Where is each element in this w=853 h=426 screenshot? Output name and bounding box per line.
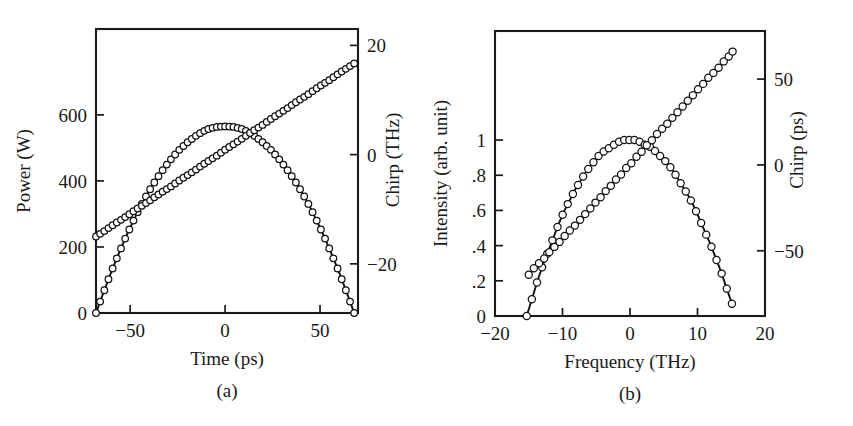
data-point — [334, 265, 341, 272]
data-point — [523, 312, 530, 319]
data-point — [541, 255, 548, 262]
x-axis-title: Time (ps) — [190, 348, 264, 370]
data-point — [288, 173, 295, 180]
data-point — [155, 173, 162, 180]
data-point — [729, 48, 736, 55]
y-tick-label: .4 — [472, 236, 487, 257]
series-chirp — [93, 60, 358, 240]
data-point — [351, 310, 358, 317]
panel-b: −20−10010200.2.4.6.81−50050Frequency (TH… — [427, 0, 853, 426]
data-point — [587, 205, 594, 212]
data-point — [617, 171, 624, 178]
data-point — [326, 245, 333, 252]
data-point — [580, 173, 587, 180]
data-point — [597, 194, 604, 201]
data-point — [118, 245, 125, 252]
y2-tick-label: −50 — [774, 241, 804, 262]
data-point — [309, 209, 316, 216]
data-point — [97, 298, 104, 305]
data-point — [718, 270, 725, 277]
data-point — [151, 179, 158, 186]
data-point — [114, 255, 121, 262]
x-tick-label: −10 — [548, 323, 578, 344]
data-point — [664, 120, 671, 127]
data-point — [687, 197, 694, 204]
data-point — [556, 238, 563, 245]
data-point — [147, 186, 154, 193]
data-point — [525, 271, 532, 278]
data-point — [533, 279, 540, 286]
x-axis-title: Frequency (THz) — [564, 351, 695, 373]
data-point — [338, 276, 345, 283]
data-point — [351, 60, 358, 67]
data-point — [677, 180, 684, 187]
y-tick-label: .8 — [472, 165, 486, 186]
data-point — [559, 211, 566, 218]
data-point — [703, 231, 710, 238]
data-point — [343, 287, 350, 294]
data-point — [293, 179, 300, 186]
panel-caption: (a) — [216, 380, 237, 402]
y-tick-label: 600 — [59, 105, 88, 126]
y-tick-label: 200 — [59, 237, 88, 258]
data-point — [347, 298, 354, 305]
data-point — [648, 137, 655, 144]
data-point — [713, 256, 720, 263]
x-tick-label: 50 — [311, 320, 330, 341]
figure-root: −500500200400600−20020Time (ps)Power (W)… — [0, 0, 853, 426]
y-axis-title: Power (W) — [13, 129, 35, 213]
data-point — [628, 160, 635, 167]
panel-caption: (b) — [619, 383, 641, 405]
data-point — [322, 235, 329, 242]
data-point — [109, 265, 116, 272]
data-point — [607, 182, 614, 189]
data-point — [698, 219, 705, 226]
panel-a: −500500200400600−20020Time (ps)Power (W)… — [0, 0, 427, 426]
data-point — [708, 243, 715, 250]
y-tick-label: 0 — [78, 303, 88, 324]
y2-tick-label: −20 — [367, 254, 397, 275]
data-point — [130, 217, 137, 224]
data-point — [715, 64, 722, 71]
data-point — [313, 217, 320, 224]
data-point — [700, 80, 707, 87]
data-point — [723, 285, 730, 292]
x-tick-label: 0 — [220, 320, 230, 341]
series-chirp — [525, 48, 736, 278]
x-tick-label: −50 — [115, 320, 145, 341]
data-point — [672, 171, 679, 178]
y-axis-title: Intensity (arb. unit) — [430, 100, 452, 247]
data-point — [574, 181, 581, 188]
data-point — [554, 223, 561, 230]
data-point — [569, 190, 576, 197]
data-point — [105, 276, 112, 283]
x-tick-label: 0 — [625, 323, 635, 344]
data-point — [689, 92, 696, 99]
y2-tick-label: 50 — [774, 69, 793, 90]
y-tick-label: .2 — [472, 271, 486, 292]
y2-axis-title: Chirp (THz) — [382, 113, 404, 207]
data-point — [564, 201, 571, 208]
y2-axis-title: Chirp (ps) — [786, 111, 808, 189]
data-point — [330, 255, 337, 262]
data-point — [305, 201, 312, 208]
data-point — [122, 235, 129, 242]
y-tick-label: .6 — [472, 200, 486, 221]
data-point — [93, 310, 100, 317]
y2-tick-label: 0 — [774, 155, 784, 176]
data-point — [318, 226, 325, 233]
x-tick-label: 20 — [756, 323, 775, 344]
data-point — [301, 193, 308, 200]
x-tick-label: 10 — [688, 323, 707, 344]
y-tick-label: 400 — [59, 171, 88, 192]
data-point — [585, 165, 592, 172]
y-tick-label: 0 — [477, 306, 487, 327]
y2-tick-label: 0 — [367, 145, 377, 166]
data-point — [728, 300, 735, 307]
data-point — [297, 186, 304, 193]
plot-frame — [96, 29, 358, 313]
data-point — [284, 167, 291, 174]
data-point — [638, 148, 645, 155]
data-point — [101, 287, 108, 294]
data-point — [682, 188, 689, 195]
